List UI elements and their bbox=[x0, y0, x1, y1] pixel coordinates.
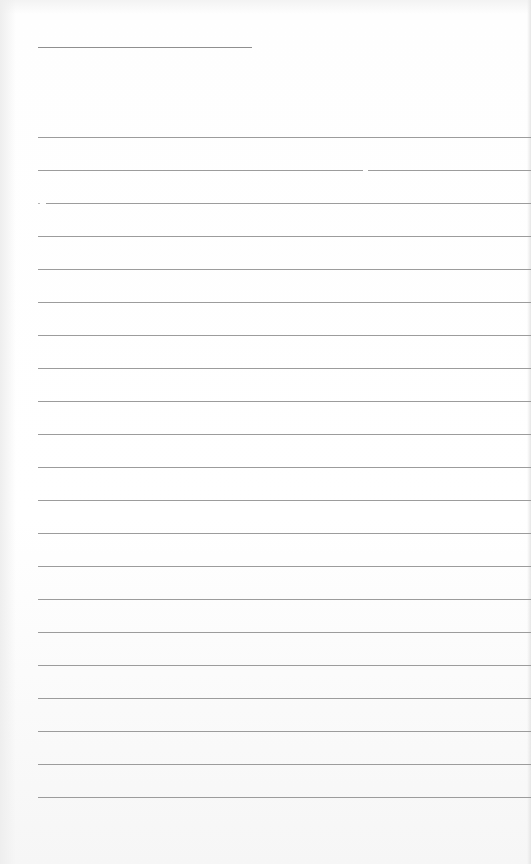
ruled-line bbox=[46, 203, 531, 204]
ruled-line bbox=[38, 566, 531, 567]
ruled-line bbox=[38, 170, 531, 171]
ruled-line bbox=[38, 599, 531, 600]
ruled-line bbox=[38, 401, 531, 402]
ruled-line bbox=[38, 335, 531, 336]
ruled-line bbox=[38, 665, 531, 666]
ruled-line bbox=[38, 236, 531, 237]
ruled-line bbox=[38, 434, 531, 435]
ruled-line bbox=[38, 368, 531, 369]
ruled-line bbox=[38, 500, 531, 501]
title-write-line bbox=[38, 47, 252, 48]
ruled-line bbox=[38, 731, 531, 732]
ruled-line bbox=[38, 467, 531, 468]
ruled-line bbox=[38, 137, 531, 138]
ruled-line bbox=[38, 632, 531, 633]
page-shadow-left bbox=[0, 0, 16, 864]
lined-paper-page bbox=[0, 0, 531, 864]
line-gap bbox=[363, 170, 368, 171]
ruled-line bbox=[38, 269, 531, 270]
ruled-line bbox=[38, 302, 531, 303]
ruled-line bbox=[38, 698, 531, 699]
ruled-line bbox=[38, 797, 531, 798]
page-shadow-right bbox=[527, 0, 531, 864]
margin-tick-mark bbox=[38, 203, 40, 204]
ruled-line bbox=[38, 533, 531, 534]
ruled-line bbox=[38, 764, 531, 765]
